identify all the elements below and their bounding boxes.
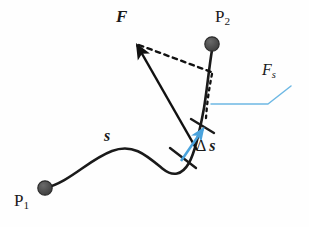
label-p1-subscript: 1 (23, 199, 29, 211)
figure-canvas (0, 0, 309, 227)
label-point-p1: P1 (14, 192, 29, 209)
label-fs-subscript: s (272, 69, 276, 80)
label-point-p2: P2 (215, 8, 230, 25)
point-marker-p1 (38, 181, 52, 195)
label-arc-length-text: s (104, 127, 110, 144)
label-arc-length: s (104, 128, 110, 144)
force-vector-arrow (137, 45, 197, 150)
label-tangential-force: Fs (262, 62, 276, 78)
physics-figure: F P2 Fs Δs s P1 (0, 0, 309, 227)
point-marker-p2 (205, 37, 219, 51)
label-fs-text: F (262, 61, 272, 78)
trajectory-path (45, 50, 212, 188)
fs-leader-line (211, 86, 291, 104)
label-delta-s-variable: s (209, 137, 215, 154)
label-p2-subscript: 2 (224, 15, 230, 27)
label-delta-s: Δs (196, 138, 216, 154)
label-force-text: F (116, 7, 127, 26)
label-delta-symbol: Δ (196, 137, 206, 154)
label-force-vector: F (116, 8, 127, 25)
